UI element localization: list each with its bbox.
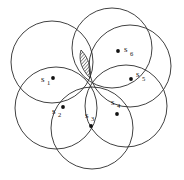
sample-dot-s5 [129, 77, 133, 81]
sample-label-s2: s [52, 106, 56, 116]
sample-dot-s1 [51, 76, 55, 80]
sample-label-s3: s [85, 110, 89, 120]
sample-dot-s4 [115, 112, 119, 116]
sample-label-s1: s [41, 74, 45, 84]
venn-diagram-figure: s1s2s3s4s5s6 [0, 0, 184, 180]
sample-subscript-6: 6 [130, 50, 134, 57]
sample-label-s5: s [136, 69, 140, 79]
sample-label-s4: s [111, 97, 115, 107]
sample-dot-s2 [61, 105, 65, 109]
sample-dot-s3 [89, 124, 93, 128]
circle-6 [72, 8, 152, 88]
sample-subscript-2: 2 [58, 111, 61, 118]
sample-label-s6: s [124, 44, 128, 54]
circle-5 [89, 25, 171, 107]
sample-subscript-1: 1 [47, 79, 50, 86]
venn-diagram-canvas: s1s2s3s4s5s6 [0, 0, 184, 180]
sample-dot-s6 [116, 49, 120, 53]
sample-subscript-3: 3 [91, 115, 94, 122]
circles-group [11, 8, 171, 169]
sample-subscript-5: 5 [142, 75, 145, 82]
sample-points-group: s1s2s3s4s5s6 [41, 44, 145, 128]
